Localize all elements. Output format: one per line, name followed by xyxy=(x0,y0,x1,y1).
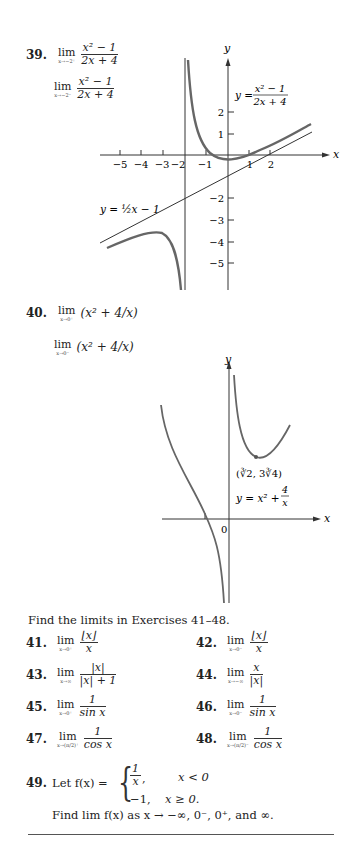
function-label-lhs: y = xyxy=(234,89,253,101)
fraction: ⌊x⌋x xyxy=(250,630,269,655)
exercise-number: 43. xyxy=(26,668,47,682)
y-tick-label: −2 xyxy=(209,193,224,204)
exercise-49-prompt: Find lim f(x) as x → −∞, 0⁻, 0⁺, and ∞. xyxy=(52,808,274,822)
exercise-44: 44. limx→−∞ x|x| xyxy=(196,662,263,687)
denominator: x xyxy=(130,776,141,788)
limit-operator: limx→−∞ xyxy=(227,665,244,684)
limit-subscript: x→(π/2)⁺ xyxy=(57,742,79,748)
y-axis-label: y xyxy=(224,353,232,366)
exercise-43: 43. limx→∞ |x||x| + 1 xyxy=(26,662,116,687)
function-label-den: 2x + 4 xyxy=(252,96,286,107)
divider xyxy=(28,834,334,835)
limit-operator: limx→(π/2)⁺ xyxy=(57,729,79,748)
x-tick-label: 1 xyxy=(247,159,253,170)
exercise-number: 41. xyxy=(26,636,47,650)
y-tick-label: 2 xyxy=(218,107,224,118)
fraction: 1sin x xyxy=(80,694,106,719)
exercise-number: 42. xyxy=(196,636,217,650)
limit-subscript: x→−∞ xyxy=(227,678,244,684)
fraction: 1sin x xyxy=(250,694,276,719)
limit-operator: limx→0⁻ xyxy=(227,633,244,652)
min-point-label: (∛2, 3∛4) xyxy=(236,467,282,479)
exercise-47: 47. limx→(π/2)⁺ 1cos x xyxy=(26,726,112,751)
y-tick-label: 1 xyxy=(218,129,224,140)
graph-39: y x −5 −4 −3 −2 −1 1 2 2 1 −2 −3 −4 −5 y… xyxy=(0,0,342,300)
denominator: |x| xyxy=(250,675,264,687)
exercise-48: 48. limx→(π/2)⁻ 1cos x xyxy=(196,726,282,751)
exercise-42: 42. limx→0⁻ ⌊x⌋x xyxy=(196,630,268,655)
limit-subscript: x→0⁻ xyxy=(227,646,244,652)
limit-subscript: x→(π/2)⁻ xyxy=(227,742,249,748)
function-label-num: x² − 1 xyxy=(255,83,286,94)
denominator: cos x xyxy=(254,739,282,751)
y-tick-label: −4 xyxy=(209,237,224,248)
x-tick-label: 2 xyxy=(268,159,274,170)
denominator: |x| + 1 xyxy=(80,675,117,687)
graph-40: y x 0 (∛2, 3∛4) y = x² + 4 x xyxy=(0,300,342,610)
case1-condition: x < 0 xyxy=(178,770,209,784)
fraction: ⌊x⌋x xyxy=(80,630,99,655)
x-tick-label: −5 xyxy=(113,159,128,170)
denominator: sin x xyxy=(80,707,106,719)
limit-operator: limx→(π/2)⁻ xyxy=(227,729,249,748)
origin-label: 0 xyxy=(221,524,227,535)
case2-condition: x ≥ 0. xyxy=(165,792,199,806)
exercise-number: 46. xyxy=(196,700,217,714)
fraction: 1cos x xyxy=(84,726,112,751)
y-tick-label: −5 xyxy=(209,258,224,269)
limit-operator: limx→0⁺ xyxy=(57,633,74,652)
fraction: |x||x| + 1 xyxy=(80,662,117,687)
exercise-number: 48. xyxy=(196,732,217,746)
limit-subscript: x→0⁺ xyxy=(57,646,74,652)
let-statement: Let f(x) = xyxy=(52,776,108,790)
case2-value: −1, xyxy=(130,792,151,806)
instructions: Find the limits in Exercises 41–48. xyxy=(28,613,230,627)
function-label-den: x xyxy=(282,497,288,508)
function-label-lhs: y = x² + xyxy=(235,492,280,504)
x-tick-label: −2 xyxy=(171,159,186,170)
exercise-46: 46. limx→0⁻ 1sin x xyxy=(196,694,276,719)
exercise-number: 44. xyxy=(196,668,217,682)
exercise-41: 41. limx→0⁺ ⌊x⌋x xyxy=(26,630,98,655)
x-tick-label: −1 xyxy=(198,159,213,170)
exercise-number: 47. xyxy=(26,732,47,746)
exercise-45: 45. limx→0⁺ 1sin x xyxy=(26,694,106,719)
limit-operator: limx→∞ xyxy=(57,665,74,684)
denominator: sin x xyxy=(250,707,276,719)
case1-fraction: 1x xyxy=(130,763,141,788)
x-tick-label: −3 xyxy=(155,159,170,170)
denominator: cos x xyxy=(84,739,112,751)
fraction: 1cos x xyxy=(254,726,282,751)
x-axis-label: x xyxy=(324,512,331,525)
limit-subscript: x→0⁺ xyxy=(57,710,74,716)
limit-subscript: x→0⁻ xyxy=(227,710,244,716)
denominator: x xyxy=(250,643,269,655)
exercise-number: 49. xyxy=(26,776,47,790)
x-axis-label: x xyxy=(333,148,340,161)
limit-operator: limx→0⁺ xyxy=(57,697,74,716)
function-label-num: 4 xyxy=(281,484,288,495)
asymptote-label: y = ½x − 1 xyxy=(99,203,160,215)
exercise-number: 45. xyxy=(26,700,47,714)
denominator: x xyxy=(80,643,99,655)
x-tick-label: −4 xyxy=(134,159,149,170)
fraction: x|x| xyxy=(250,662,264,687)
limit-operator: limx→0⁻ xyxy=(227,697,244,716)
y-axis-label: y xyxy=(223,42,231,55)
y-tick-label: −3 xyxy=(209,215,224,226)
